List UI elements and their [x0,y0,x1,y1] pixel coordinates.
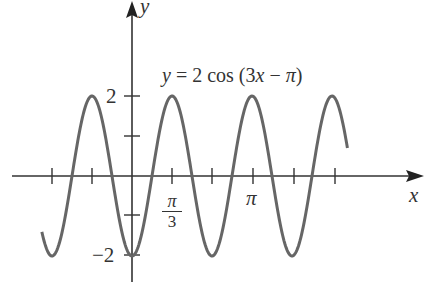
y-axis-label: y [140,0,149,19]
graph-figure: y x 2 −2 π 3 π y = 2 cos (3x − π) [0,0,433,282]
x-tick-label-pi-over-3: π 3 [162,192,182,230]
equation-label: y = 2 cos (3x − π) [162,64,302,87]
x-tick-label-pi: π [246,186,257,211]
fraction-denominator: 3 [162,212,182,230]
x-axis-label: x [409,183,418,208]
y-tick-label-neg2: −2 [92,243,114,268]
y-tick-label-2: 2 [106,84,117,109]
graph-canvas [0,0,433,282]
fraction-numerator: π [162,192,182,212]
